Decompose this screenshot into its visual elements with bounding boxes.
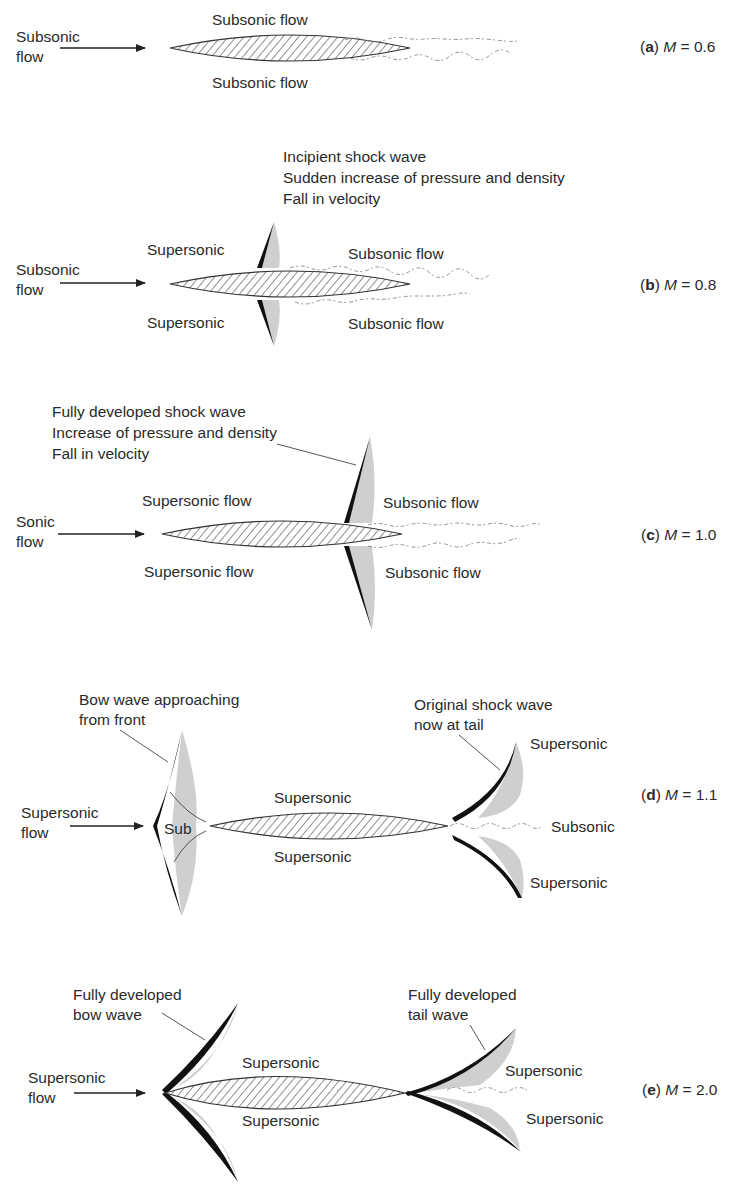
panel-c: Fully developed shock wave Increase of p… [16,403,717,630]
bow-note-line2: bow wave [73,1006,142,1023]
tail-note-line1: Original shock wave [414,696,553,713]
shock-note-line3: Fall in velocity [283,190,381,207]
tail-mid-label: Subsonic [551,818,615,835]
leader-line [277,444,356,465]
inflow-label-line1: Subsonic [16,261,80,278]
inflow-label-line1: Supersonic [21,804,99,821]
tail-upper-label: Supersonic [505,1062,583,1079]
leader-line-tail [470,1025,485,1050]
panel-label: (d) M = 1.1 [641,786,717,803]
wake [450,824,542,829]
tail-upper-label: Supersonic [530,735,608,752]
aerofoil [170,271,410,297]
leader-line-bow [162,1013,205,1040]
panel-e: Fully developed bow wave Fully developed… [28,986,718,1182]
inflow-label-line2: flow [16,281,44,298]
aerofoil [165,1077,405,1110]
inflow-label-line2: flow [16,533,44,550]
wake-upper [368,523,540,527]
panel-label: (a) M = 0.6 [640,38,715,55]
tail-lower-label: Supersonic [530,874,608,891]
wake [447,1088,527,1093]
shock-note-line2: Sudden increase of pressure and density [283,169,565,186]
tail-shade-upper [418,1028,516,1093]
sub-label: Sub [164,820,192,837]
panel-label: (b) M = 0.8 [640,276,716,293]
panel-d: Bow wave approaching from front Original… [21,691,717,916]
bow-note-line1: Bow wave approaching [79,691,239,708]
inflow-label-line1: Subsonic [16,28,80,45]
upper-rear-label: Subsonic flow [348,245,444,262]
upper-mid-label: Supersonic [274,789,352,806]
shock-shade-upper [262,222,280,268]
wake-lower [368,538,520,547]
leader-line-tail [459,735,500,770]
shock-wave-diagram: Subsonic flow Subsonic flow Subsonic flo… [0,0,743,1196]
panel-a: Subsonic flow Subsonic flow Subsonic flo… [16,11,715,91]
panel-label: (e) M = 2.0 [642,1081,718,1098]
upper-flow-label: Subsonic flow [212,11,308,28]
inflow-label-line2: flow [28,1089,56,1106]
inflow-label-line1: Sonic [16,513,55,530]
upper-front-label: Supersonic [147,241,225,258]
leader-line-bow [120,730,168,762]
panel-label: (c) M = 1.0 [641,526,717,543]
shock-shade-lower [262,300,280,346]
tail-note-line2: tail wave [408,1006,468,1023]
inflow-label-line1: Supersonic [28,1069,106,1086]
lower-front-label: Supersonic flow [144,563,254,580]
lower-flow-label: Subsonic flow [212,74,308,91]
aerofoil [162,521,402,547]
tail-note-line1: Fully developed [408,986,517,1003]
upper-front-label: Supersonic flow [142,492,252,509]
lower-mid-label: Supersonic [274,848,352,865]
lower-rear-label: Subsonic flow [385,564,481,581]
aerofoil [210,813,448,839]
lower-rear-label: Subsonic flow [348,315,444,332]
tail-lower-label: Supersonic [526,1110,604,1127]
shock-note-line1: Incipient shock wave [283,148,426,165]
upper-rear-label: Subsonic flow [383,494,479,511]
shock-note-line3: Fall in velocity [52,445,150,462]
bow-note-line1: Fully developed [73,986,182,1003]
tail-note-line2: now at tail [414,716,484,733]
shock-note-line2: Increase of pressure and density [52,424,277,441]
upper-mid-label: Supersonic [242,1054,320,1071]
lower-mid-label: Supersonic [242,1112,320,1129]
inflow-label-line2: flow [16,48,44,65]
shock-note-line1: Fully developed shock wave [52,403,246,420]
lower-front-label: Supersonic [147,314,225,331]
inflow-label-line2: flow [21,824,49,841]
panel-b: Incipient shock wave Sudden increase of … [16,148,716,346]
bow-note-line2: from front [79,711,146,728]
